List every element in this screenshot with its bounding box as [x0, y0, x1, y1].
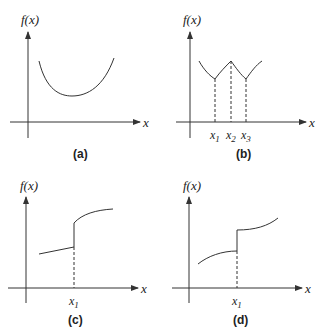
- x1-label: x1: [68, 294, 79, 310]
- y-axis-label: f(x): [21, 12, 39, 27]
- x3-label: x3: [240, 128, 251, 144]
- x2-label: x2: [225, 128, 236, 144]
- panel-d: f(x) x x1 (d): [172, 178, 311, 327]
- right-convex-curve: [237, 218, 278, 230]
- x-axis-label: x: [142, 115, 149, 130]
- x-axis-label: x: [140, 281, 147, 296]
- x-axis-label: x: [308, 115, 315, 130]
- linear-segment: [39, 247, 74, 254]
- caption-c: (c): [68, 313, 83, 327]
- panel-c: f(x) x x1 (c): [8, 178, 147, 327]
- caption-a: (a): [73, 147, 88, 161]
- caption-d: (d): [233, 313, 248, 327]
- panel-a: f(x) x (a): [10, 12, 149, 161]
- x1-label: x1: [209, 128, 220, 144]
- caption-b: (b): [236, 147, 251, 161]
- panel-b: f(x) x x1 x2 x3 (b): [176, 12, 315, 161]
- y-axis-label: f(x): [20, 178, 38, 193]
- y-axis-label: f(x): [183, 12, 201, 27]
- convex-curve: [39, 58, 114, 96]
- left-concave-curve: [198, 251, 237, 264]
- function-diagram: f(x) x (a) f(x) x x1 x2 x3 (b) f(x) x x1…: [0, 0, 328, 332]
- x-axis-label: x: [304, 281, 311, 296]
- x1-label: x1: [231, 294, 242, 310]
- concave-curve: [74, 209, 113, 223]
- y-axis-label: f(x): [183, 178, 201, 193]
